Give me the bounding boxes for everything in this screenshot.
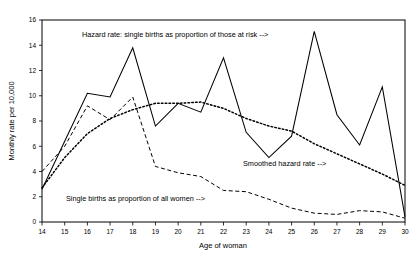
y-tick-label: 16	[29, 16, 37, 23]
x-tick-label: 22	[220, 228, 228, 235]
series-hazard-rate-line	[42, 31, 405, 217]
x-tick-label: 18	[129, 228, 137, 235]
x-tick-label: 30	[401, 228, 409, 235]
y-tick-label: 12	[29, 67, 37, 74]
x-tick-label: 15	[61, 228, 69, 235]
y-tick-label: 6	[32, 143, 36, 150]
hazard-rate-annotation: Hazard rate: single births as proportion…	[82, 30, 268, 39]
y-axis-tick-labels: 0246810121416	[29, 16, 37, 225]
x-tick-label: 16	[84, 228, 92, 235]
x-tick-label: 25	[288, 228, 296, 235]
series-smoothed-hazard-line	[42, 102, 405, 188]
x-tick-label: 29	[379, 228, 387, 235]
y-tick-label: 4	[32, 168, 36, 175]
x-axis-tick-labels: 1415161718192021222324252627282930	[38, 228, 409, 235]
y-tick-label: 8	[32, 117, 36, 124]
x-tick-label: 28	[356, 228, 364, 235]
plot-frame	[42, 20, 405, 222]
y-tick-label: 10	[29, 92, 37, 99]
y-tick-label: 2	[32, 193, 36, 200]
smoothed-hazard-annotation: Smoothed hazard rate -->	[243, 159, 326, 168]
x-tick-label: 20	[175, 228, 183, 235]
x-axis-title: Age of woman	[199, 241, 247, 250]
y-tick-label: 0	[32, 218, 36, 225]
x-tick-label: 27	[333, 228, 341, 235]
x-tick-label: 17	[106, 228, 114, 235]
chart-container: 0246810121416 14151617181920212223242526…	[0, 0, 420, 260]
x-tick-label: 14	[38, 228, 46, 235]
x-tick-label: 23	[243, 228, 251, 235]
x-tick-label: 19	[152, 228, 160, 235]
y-tick-label: 14	[29, 42, 37, 49]
x-tick-label: 26	[311, 228, 319, 235]
x-tick-label: 21	[197, 228, 205, 235]
x-tick-label: 24	[265, 228, 273, 235]
single-births-annotation: Single births as proportion of all women…	[66, 194, 205, 203]
y-axis-title: Monthly rate per 10,000	[7, 81, 16, 160]
x-axis-ticks	[42, 222, 405, 226]
line-chart: 0246810121416 14151617181920212223242526…	[0, 0, 420, 260]
